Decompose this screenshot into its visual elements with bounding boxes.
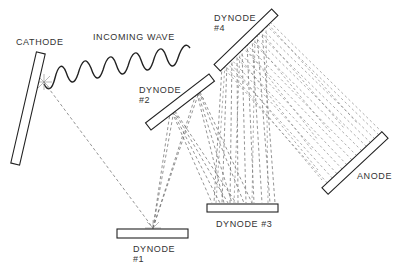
ray-dynode1-to-dynode2 bbox=[153, 110, 174, 228]
label-dynode1: DYNODE #1 bbox=[133, 244, 175, 264]
anode-plate bbox=[322, 132, 388, 195]
cathode-plate bbox=[11, 52, 45, 165]
rays-dynode2-to-dynode3 bbox=[172, 92, 252, 203]
label-cathode: CATHODE bbox=[16, 37, 64, 47]
label-dynode4: DYNODE #4 bbox=[214, 13, 256, 33]
ray-dynode1-to-dynode2 bbox=[153, 113, 170, 228]
label-dynode2: DYNODE #2 bbox=[139, 85, 181, 105]
label-anode: ANODE bbox=[357, 171, 392, 181]
label-dynode3: DYNODE #3 bbox=[216, 219, 272, 229]
dynode1-plate bbox=[117, 229, 188, 238]
ray-cathode-to-dynode1 bbox=[44, 82, 153, 228]
dynode3-plate bbox=[207, 204, 278, 212]
incoming-wave bbox=[44, 45, 190, 89]
label-incoming-wave: INCOMING WAVE bbox=[93, 32, 175, 42]
